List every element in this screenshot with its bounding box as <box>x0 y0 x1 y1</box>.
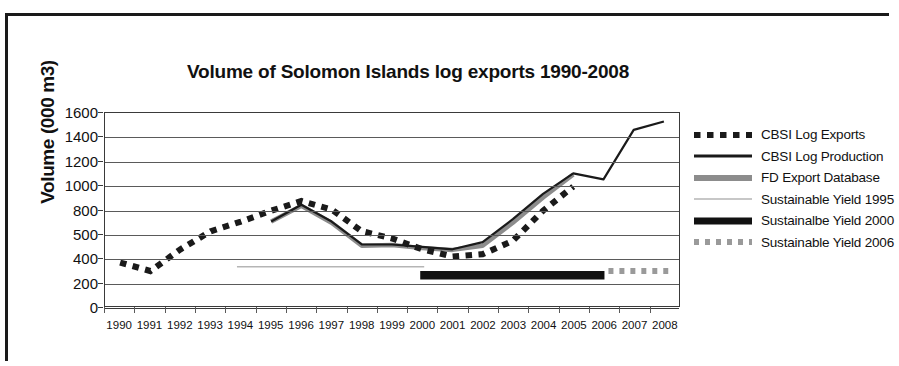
legend-swatch-icon <box>694 171 752 185</box>
legend-label: CBSI Log Production <box>761 149 883 164</box>
legend-label: CBSI Log Exports <box>761 127 865 142</box>
y-axis-tick-labels: 16001400120010008005004002000 <box>36 112 98 307</box>
y-tick-label: 1600 <box>38 104 98 121</box>
y-tick-label: 1400 <box>38 128 98 145</box>
x-tick-mark <box>650 307 651 313</box>
x-tick-label: 2001 <box>440 319 466 331</box>
x-tick-mark <box>468 307 469 313</box>
x-tick-label: 1994 <box>228 319 254 331</box>
x-tick-mark <box>377 307 378 313</box>
x-tick-label: 1997 <box>319 319 345 331</box>
gridline <box>105 137 679 138</box>
x-tick-mark <box>528 307 529 313</box>
gridline <box>105 259 679 260</box>
gridline <box>105 235 679 236</box>
x-tick-mark <box>437 307 438 313</box>
legend-item[interactable]: CBSI Log Exports <box>694 124 899 146</box>
x-tick-mark <box>225 307 226 313</box>
y-tick-mark <box>98 161 103 162</box>
x-tick-mark <box>619 307 620 313</box>
x-tick-label: 1991 <box>137 319 163 331</box>
y-tick-mark <box>98 283 103 284</box>
x-tick-label: 2007 <box>622 319 648 331</box>
chart-title: Volume of Solomon Islands log exports 19… <box>118 61 698 83</box>
gridline <box>105 211 679 212</box>
y-tick-mark <box>98 307 103 308</box>
y-tick-label: 1000 <box>38 177 98 194</box>
legend-item[interactable]: FD Export Database <box>694 167 899 189</box>
x-tick-mark <box>347 307 348 313</box>
legend-label: Sustainable Yield 1995 <box>761 192 894 207</box>
legend-item[interactable]: Sustainable Yield 2006 <box>694 232 899 254</box>
y-tick-mark <box>98 234 103 235</box>
chart-legend: CBSI Log ExportsCBSI Log ProductionFD Ex… <box>694 124 899 253</box>
x-tick-label: 1996 <box>288 319 314 331</box>
x-tick-label: 2004 <box>531 319 557 331</box>
y-tick-label: 400 <box>38 250 98 267</box>
legend-swatch-icon <box>694 149 752 163</box>
plot-area <box>104 112 680 307</box>
series-layer <box>105 113 679 306</box>
x-tick-mark <box>316 307 317 313</box>
x-tick-mark <box>589 307 590 313</box>
y-tick-label: 1200 <box>38 152 98 169</box>
x-tick-mark <box>407 307 408 313</box>
x-tick-label: 1990 <box>106 319 132 331</box>
x-tick-label: 1999 <box>379 319 405 331</box>
y-tick-label: 500 <box>38 225 98 242</box>
x-tick-mark <box>498 307 499 313</box>
gridline <box>105 186 679 187</box>
legend-label: FD Export Database <box>761 170 880 185</box>
x-tick-label: 2005 <box>561 319 587 331</box>
chart-figure: Volume of Solomon Islands log exports 19… <box>5 13 889 361</box>
x-tick-mark <box>165 307 166 313</box>
y-tick-mark <box>98 112 103 113</box>
legend-item[interactable]: CBSI Log Production <box>694 146 899 168</box>
legend-label: Sustainalbe Yield 2000 <box>761 213 894 228</box>
x-tick-label: 1992 <box>167 319 193 331</box>
legend-swatch-icon <box>694 235 752 249</box>
legend-item[interactable]: Sustainable Yield 1995 <box>694 189 899 211</box>
x-tick-mark <box>559 307 560 313</box>
y-tick-label: 200 <box>38 274 98 291</box>
x-axis-tick-labels: 1990199119921993199419951996199719981999… <box>104 319 680 339</box>
legend-item[interactable]: Sustainalbe Yield 2000 <box>694 210 899 232</box>
y-tick-mark <box>98 185 103 186</box>
x-tick-label: 2002 <box>470 319 496 331</box>
y-tick-mark <box>98 210 103 211</box>
x-tick-label: 2006 <box>591 319 617 331</box>
x-tick-mark <box>286 307 287 313</box>
x-tick-label: 1993 <box>197 319 223 331</box>
y-tick-mark <box>98 136 103 137</box>
gridline <box>105 284 679 285</box>
x-tick-label: 1995 <box>258 319 284 331</box>
x-tick-mark <box>195 307 196 313</box>
x-tick-mark <box>134 307 135 313</box>
y-tick-mark <box>98 258 103 259</box>
legend-swatch-icon <box>694 128 752 142</box>
x-tick-mark <box>256 307 257 313</box>
legend-swatch-icon <box>694 192 752 206</box>
y-tick-label: 800 <box>38 201 98 218</box>
x-tick-label: 1998 <box>349 319 375 331</box>
x-tick-label: 2000 <box>410 319 436 331</box>
x-tick-mark <box>104 307 105 313</box>
x-axis-ticks <box>104 307 680 314</box>
gridline <box>105 162 679 163</box>
x-tick-label: 2003 <box>500 319 526 331</box>
legend-label: Sustainable Yield 2006 <box>761 235 894 250</box>
legend-swatch-icon <box>694 214 752 228</box>
x-tick-label: 2008 <box>652 319 678 331</box>
y-tick-label: 0 <box>38 299 98 316</box>
